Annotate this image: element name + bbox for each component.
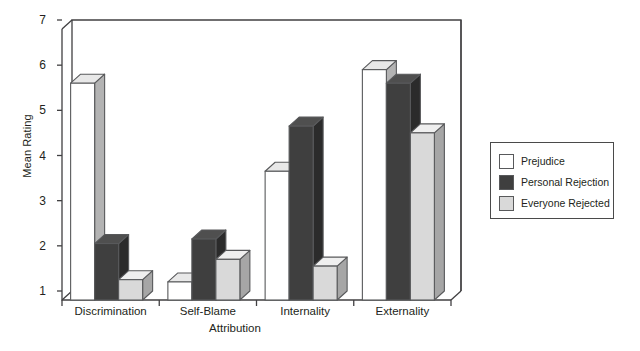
x-tick-label: Externality: [376, 305, 430, 317]
legend-item-prejudice: Prejudice: [499, 152, 565, 170]
bar-internality-everyone-rejected: [313, 257, 347, 300]
legend-swatch-icon: [499, 175, 514, 190]
legend: PrejudicePersonal RejectionEveryone Reje…: [490, 142, 614, 219]
x-tick-label: Internality: [280, 305, 330, 317]
legend-swatch-icon: [499, 196, 514, 211]
legend-label: Everyone Rejected: [521, 198, 610, 209]
x-tick-label: Discrimination: [75, 305, 147, 317]
x-tick-label: Self-Blame: [180, 305, 236, 317]
legend-item-personal-rejection: Personal Rejection: [499, 173, 609, 191]
legend-swatch-icon: [499, 154, 514, 169]
legend-label: Prejudice: [521, 156, 565, 167]
bar-externality-everyone-rejected: [410, 124, 444, 300]
x-axis-title: Attribution: [0, 322, 470, 334]
bar-discrimination-everyone-rejected: [119, 271, 153, 300]
bar-chart-figure: Mean Rating 1234567 DiscriminationSelf-B…: [0, 0, 640, 351]
bar-self-blame-everyone-rejected: [216, 250, 250, 300]
legend-label: Personal Rejection: [521, 177, 609, 188]
legend-item-everyone-rejected: Everyone Rejected: [499, 194, 610, 212]
